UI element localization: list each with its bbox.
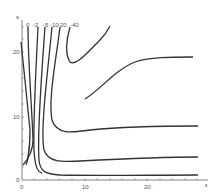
contour-label-m40: -40 bbox=[70, 22, 79, 28]
x-tick-0: 0 bbox=[20, 184, 24, 190]
contour-label-m5: -5 bbox=[43, 22, 49, 28]
y-tick-0: 0 bbox=[16, 177, 20, 183]
x-tick-20: 20 bbox=[144, 184, 151, 190]
contour-0-left bbox=[23, 27, 33, 165]
contour-chart: 20 10 0 0 10 20 ε s 0 -2 -5 -10 -20 -40 bbox=[0, 0, 223, 195]
contour-m5 bbox=[39, 27, 198, 175]
x-ticks bbox=[34, 178, 197, 181]
contour-m40-lower bbox=[85, 57, 193, 99]
contour-m20 bbox=[51, 27, 198, 132]
y-tick-20: 20 bbox=[13, 49, 20, 55]
x-axis-label: ε bbox=[205, 182, 208, 188]
contour-m40-loop bbox=[67, 26, 110, 63]
y-tick-10: 10 bbox=[13, 114, 20, 120]
x-tick-10: 10 bbox=[82, 184, 89, 190]
y-axis-label: s bbox=[16, 14, 19, 20]
